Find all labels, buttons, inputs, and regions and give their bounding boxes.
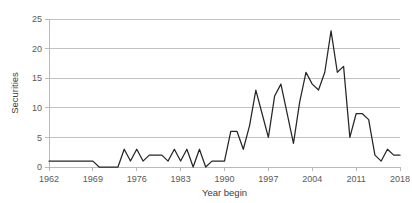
series-line-0 [49,31,400,167]
x-tick-label-1983: 1983 [171,174,191,184]
y-tick-label-20: 20 [32,44,42,54]
x-tick-label-1976: 1976 [127,174,147,184]
x-tick-label-1997: 1997 [258,174,278,184]
y-tick-label-0: 0 [37,162,42,172]
y-tick-label-5: 5 [37,133,42,143]
x-axis-title: Year begin [202,187,247,198]
y-tick-label-15: 15 [32,73,42,83]
x-tick-label-2004: 2004 [302,174,322,184]
x-tick-label-1990: 1990 [214,174,234,184]
y-tick-label-10: 10 [32,103,42,113]
chart-canvas: 0510152025196219691976198319901997200420… [0,0,412,203]
y-axis-title: Securities [9,72,20,114]
x-tick-label-1969: 1969 [83,174,103,184]
x-tick-label-2018: 2018 [390,174,410,184]
line-chart: 0510152025196219691976198319901997200420… [0,0,412,203]
x-tick-label-1962: 1962 [39,174,59,184]
x-tick-label-2011: 2011 [346,174,365,184]
y-tick-label-25: 25 [32,14,42,24]
